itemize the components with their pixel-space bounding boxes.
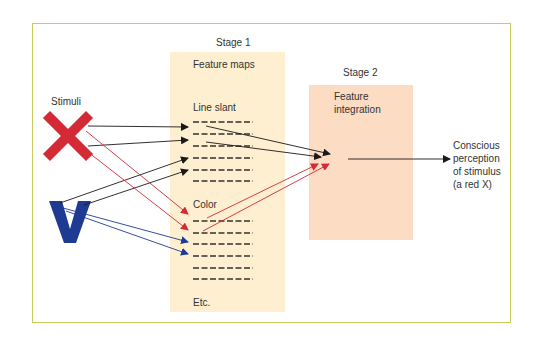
red-x-stimulus-icon xyxy=(50,118,86,154)
color-to-integration-arrows xyxy=(203,164,329,231)
x-to-slant-arrows xyxy=(88,126,188,146)
color-feature-rows xyxy=(193,221,253,279)
x-to-color-arrows xyxy=(86,131,188,230)
diagram-graphics xyxy=(0,0,537,345)
slant-to-integration-arrows xyxy=(206,126,330,157)
line-slant-feature-rows xyxy=(193,122,253,181)
blue-v-stimulus-icon xyxy=(49,201,91,243)
